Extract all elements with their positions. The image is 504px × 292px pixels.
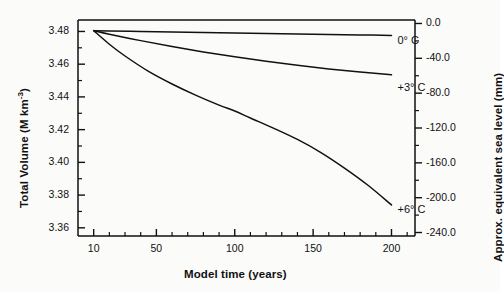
y2-tick-label: -40.0 [426,51,450,63]
axis-ticks [78,23,422,236]
series-label: 0° C [397,34,419,46]
x-tick-label: 100 [226,242,244,254]
plot-frame [78,20,415,236]
series-label: +6° C [397,203,425,215]
x-tick-label: 150 [304,242,322,254]
y-tick-label: 3.40 [49,155,69,167]
x-tick-label: 200 [383,242,401,254]
y2-tick-label: 0.0 [426,16,441,28]
y-tick-label: 3.38 [49,188,69,200]
data-series-lines [94,31,392,205]
y2-tick-label: -160.0 [426,156,456,168]
x-tick-label: 10 [88,242,100,254]
y-tick-label: 3.42 [49,123,69,135]
series-label: +3° C [397,81,425,93]
y2-tick-label: -120.0 [426,121,456,133]
series-line [94,31,392,205]
y-tick-label: 3.36 [49,221,69,233]
y2-tick-label: -200.0 [426,191,456,203]
y2-tick-label: -80.0 [426,86,450,98]
series-line [94,31,392,75]
y-tick-label: 3.48 [49,24,69,36]
series-line [94,31,392,36]
x-tick-label: 50 [151,242,163,254]
y2-tick-label: -240.0 [426,226,456,238]
y-tick-label: 3.44 [49,90,69,102]
y-tick-label: 3.46 [49,57,69,69]
